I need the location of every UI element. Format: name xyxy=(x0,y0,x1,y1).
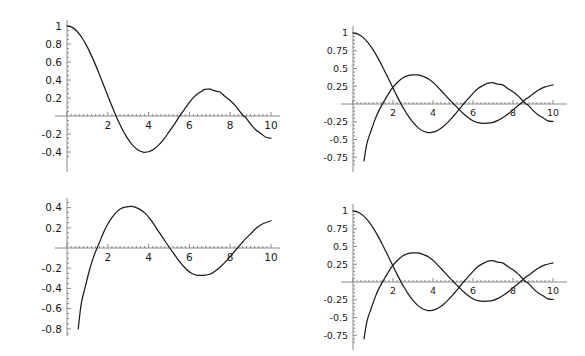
curve-bessely0 xyxy=(364,253,553,339)
y-tick-label: 1 xyxy=(342,205,348,216)
y-tick-label: -0.25 xyxy=(323,116,348,127)
y-tick-label: 0.25 xyxy=(327,81,348,92)
x-tick-label: 2 xyxy=(390,107,396,118)
x-tick-label: 6 xyxy=(470,107,476,118)
y-tick-label: 0.6 xyxy=(45,56,62,68)
curve-bessely0 xyxy=(364,75,553,161)
plot-svg: 24681010.750.50.25-0.25-0.5-0.75 xyxy=(292,178,585,356)
x-tick-label: 2 xyxy=(104,251,111,263)
y-tick-label: 1 xyxy=(55,20,62,32)
y-tick-label: -0.4 xyxy=(42,146,63,158)
y-tick-label: 0.75 xyxy=(327,45,348,56)
x-tick-label: 2 xyxy=(104,119,111,131)
x-tick-label: 10 xyxy=(547,107,559,118)
y-tick-label: 0.4 xyxy=(45,201,62,213)
x-tick-label: 4 xyxy=(145,251,152,263)
x-tick-label: 10 xyxy=(264,119,277,131)
y-tick-label: -0.75 xyxy=(323,330,348,341)
plot-svg: 24681010.80.60.40.2-0.2-0.4 xyxy=(0,0,292,178)
curve-besselj0 xyxy=(67,26,271,152)
y-tick-label: -0.5 xyxy=(329,312,348,323)
bessel-function-figure: 24681010.80.60.40.2-0.2-0.4 24681010.750… xyxy=(0,0,585,356)
y-tick-label: -0.75 xyxy=(323,152,348,163)
y-tick-label: 0.75 xyxy=(327,223,348,234)
x-tick-label: 6 xyxy=(186,251,193,263)
y-tick-label: -0.2 xyxy=(42,128,63,140)
y-tick-label: -0.6 xyxy=(42,302,63,314)
plot-panel-bottom-right: 24681010.750.50.25-0.25-0.5-0.75 xyxy=(292,178,585,356)
x-tick-label: 10 xyxy=(547,285,559,296)
y-tick-label: 0.25 xyxy=(327,259,348,270)
x-tick-label: 8 xyxy=(227,119,234,131)
curve-bessely0 xyxy=(78,206,271,328)
curve-besselj0 xyxy=(353,33,553,133)
plot-panel-top-left: 24681010.80.60.40.2-0.2-0.4 xyxy=(0,0,292,178)
y-tick-label: 0.5 xyxy=(333,241,348,252)
plot-svg: 24681010.750.50.25-0.25-0.5-0.75 xyxy=(292,0,585,178)
x-tick-label: 4 xyxy=(430,285,436,296)
y-tick-label: 1 xyxy=(342,27,348,38)
plot-svg: 2468100.40.2-0.2-0.4-0.6-0.8 xyxy=(0,178,292,356)
plot-panel-top-right: 24681010.750.50.25-0.25-0.5-0.75 xyxy=(292,0,585,178)
x-tick-label: 4 xyxy=(145,119,152,131)
x-tick-label: 6 xyxy=(470,285,476,296)
x-tick-label: 10 xyxy=(264,251,277,263)
y-tick-label: 0.8 xyxy=(45,38,62,50)
y-tick-label: 0.4 xyxy=(45,74,62,86)
y-tick-label: -0.25 xyxy=(323,294,348,305)
x-tick-label: 4 xyxy=(430,107,436,118)
x-tick-label: 2 xyxy=(390,285,396,296)
y-tick-label: -0.4 xyxy=(42,282,63,294)
y-tick-label: 0.2 xyxy=(45,92,62,104)
y-tick-label: -0.8 xyxy=(42,323,63,335)
plot-panel-bottom-left: 2468100.40.2-0.2-0.4-0.6-0.8 xyxy=(0,178,292,356)
y-tick-label: -0.5 xyxy=(329,134,348,145)
x-tick-label: 6 xyxy=(186,119,193,131)
y-tick-label: -0.2 xyxy=(42,262,63,274)
curve-besselj0 xyxy=(353,211,553,311)
y-tick-label: 0.5 xyxy=(333,63,348,74)
y-tick-label: 0.2 xyxy=(45,222,62,234)
